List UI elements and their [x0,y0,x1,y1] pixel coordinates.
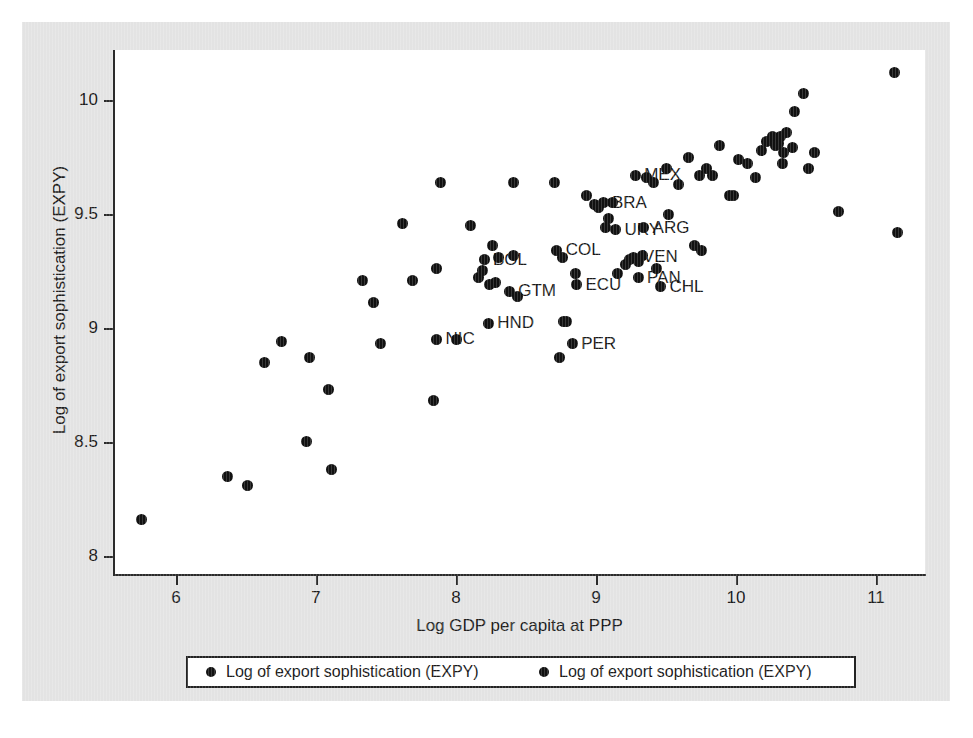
data-point [570,268,581,279]
data-point [557,252,568,263]
point-label-chl: CHL [669,277,703,297]
y-axis-line [113,50,115,575]
x-axis-tick [456,576,458,585]
data-point [798,88,809,99]
legend-entry[interactable]: Log of export sophistication (EXPY) [188,663,521,681]
y-axis-tick [104,556,113,558]
data-point [493,252,504,263]
x-axis-tick [316,576,318,585]
data-point [781,127,792,138]
data-point [276,336,287,347]
data-point [512,291,523,302]
data-point [683,152,694,163]
data-point [222,471,233,482]
data-point [889,67,900,78]
x-axis-tick [176,576,178,585]
data-point [508,177,519,188]
x-axis-title: Log GDP per capita at PPP [113,616,926,636]
point-label-arg: ARG [653,218,690,238]
data-point [663,209,674,220]
x-axis-line [113,574,926,576]
data-point [465,220,476,231]
x-axis-tick-label: 7 [286,588,346,608]
y-axis-tick [104,442,113,444]
x-axis-tick-label: 10 [706,588,766,608]
data-point [661,163,672,174]
legend-label: Log of export sophistication (EXPY) [559,663,812,681]
legend-entry[interactable]: Log of export sophistication (EXPY) [521,663,854,681]
data-point-hnd [483,318,494,329]
x-axis-tick [876,576,878,585]
x-axis-tick-label: 6 [146,588,206,608]
data-point [648,177,659,188]
legend-label: Log of export sophistication (EXPY) [226,663,479,681]
data-point-ecu [571,279,582,290]
data-point [612,268,623,279]
data-point [357,275,368,286]
data-point-bol [479,254,490,265]
data-point [397,218,408,229]
data-point [301,436,312,447]
data-point [651,263,662,274]
point-label-hnd: HND [497,313,534,333]
data-point [714,140,725,151]
x-axis-tick-label: 9 [566,588,626,608]
y-axis-title: Log of export sophistication (EXPY) [50,40,70,560]
point-label-col: COL [566,240,601,260]
data-point [728,190,739,201]
point-label-gtm: GTM [518,281,556,301]
plot-area [113,50,925,574]
x-axis-tick-label: 11 [846,588,906,608]
data-point [707,170,718,181]
point-label-per: PER [581,334,616,354]
x-axis-tick [596,576,598,585]
data-point-pan [633,272,644,283]
data-point-mex [630,170,641,181]
data-point [259,357,270,368]
data-point [673,179,684,190]
x-axis-tick [736,576,738,585]
figure-background: 88.599.510 67891011 NICBOLHNDGTMCOLPEREC… [22,22,950,701]
data-point [326,464,337,475]
data-point [696,245,707,256]
data-point [892,227,903,238]
data-point [809,147,820,158]
y-axis-tick [104,100,113,102]
data-point [490,277,501,288]
y-axis-tick [104,328,113,330]
y-axis-tick [104,214,113,216]
data-point [323,384,334,395]
data-point [561,316,572,327]
data-point [637,250,648,261]
legend-marker-icon [539,667,549,677]
data-point [435,177,446,188]
data-point [304,352,315,363]
legend-marker-icon [206,667,216,677]
data-point [242,480,253,491]
data-point [833,206,844,217]
data-point [787,142,798,153]
data-point-nic [431,334,442,345]
legend: Log of export sophistication (EXPY) Log … [186,656,856,688]
data-point [451,334,462,345]
data-point [508,250,519,261]
x-axis-tick-label: 8 [426,588,486,608]
data-point [407,275,418,286]
data-point [549,177,560,188]
data-point [136,514,147,525]
